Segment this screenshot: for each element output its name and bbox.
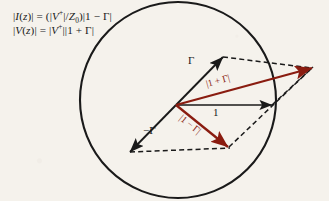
equation-current-magnitude: |I(z)| = (|V+|/Z0)|1 − Γ| [13,9,112,23]
construction-line-bottom [130,148,230,152]
equation-block: |I(z)| = (|V+|/Z0)|1 − Γ| |V(z)| = |V+||… [13,9,112,38]
label-minus-gamma: −Γ [143,124,156,136]
label-unity: 1 [213,106,219,118]
equation-voltage-magnitude: |V(z)| = |V+||1 + Γ| [13,23,112,37]
figure-page: |I(z)| = (|V+|/Z0)|1 − Γ| |V(z)| = |V+||… [0,0,329,201]
label-gamma: Γ [188,54,194,66]
